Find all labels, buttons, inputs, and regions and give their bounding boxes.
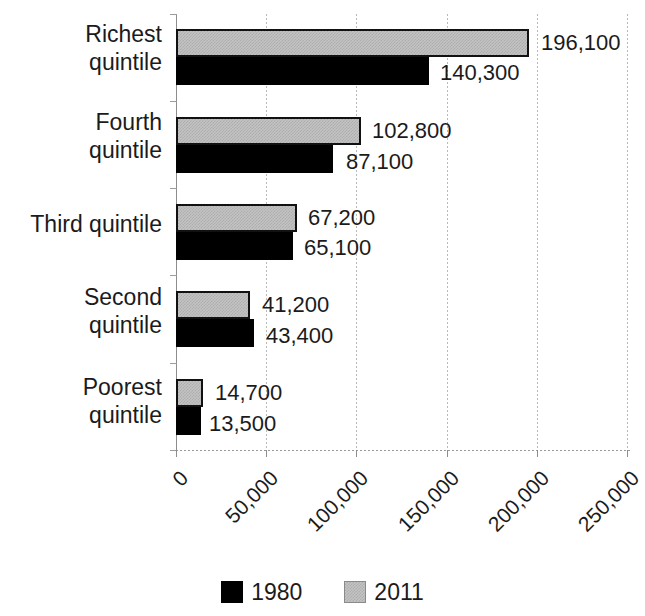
y-axis-tick-3	[170, 275, 177, 276]
value-label-1980-poorest: 13,500	[209, 412, 276, 436]
gridline-250000	[627, 14, 628, 450]
y-axis-tick-4	[170, 363, 177, 364]
bar-2011-third	[176, 204, 297, 232]
y-axis-tick-2	[170, 188, 177, 189]
legend-swatch-2011-icon	[344, 581, 366, 603]
value-label-1980-fourth: 87,100	[346, 150, 413, 174]
category-label-richest: Richest quintile	[10, 20, 162, 76]
category-label-fourth: Fourth quintile	[10, 108, 162, 164]
legend-swatch-1980-icon	[221, 581, 243, 603]
bar-1980-poorest	[176, 407, 201, 435]
legend-label-2011: 2011	[374, 579, 423, 606]
x-axis-tick-3	[447, 450, 448, 457]
value-label-2011-second: 41,200	[262, 293, 329, 317]
bar-2011-poorest	[176, 379, 203, 407]
category-label-third: Third quintile	[4, 210, 162, 238]
x-axis-tick-0	[176, 450, 177, 457]
bar-1980-richest	[176, 57, 429, 85]
bar-chart: Richest quintile Fourth quintile Third q…	[0, 0, 645, 616]
value-label-1980-third: 65,100	[304, 236, 371, 260]
x-axis-tick-4	[537, 450, 538, 457]
value-label-2011-third: 67,200	[308, 206, 375, 230]
y-axis-tick-0	[170, 14, 177, 15]
chart-legend: 1980 2011	[0, 575, 645, 609]
bar-1980-second	[176, 319, 254, 347]
bar-1980-third	[176, 232, 293, 260]
bar-1980-fourth	[176, 145, 333, 173]
bar-2011-second	[176, 291, 250, 319]
x-axis-baseline	[176, 450, 632, 451]
value-label-2011-richest: 196,100	[541, 31, 621, 55]
value-label-1980-second: 43,400	[266, 324, 333, 348]
category-label-poorest: Poorest quintile	[10, 373, 162, 429]
y-axis-tick-1	[170, 101, 177, 102]
legend-entry-1980[interactable]: 1980	[221, 579, 302, 606]
gridline-200000	[537, 14, 538, 450]
value-label-2011-poorest: 14,700	[215, 381, 282, 405]
value-label-2011-fourth: 102,800	[372, 119, 452, 143]
bar-2011-richest	[176, 29, 529, 57]
x-axis-tick-5	[627, 450, 628, 457]
legend-entry-2011[interactable]: 2011	[344, 579, 423, 606]
category-label-second: Second quintile	[10, 283, 162, 339]
legend-label-1980: 1980	[251, 579, 302, 606]
bar-2011-fourth	[176, 117, 361, 145]
x-axis-tick-1	[266, 450, 267, 457]
value-label-1980-richest: 140,300	[440, 61, 520, 85]
x-axis-tick-2	[356, 450, 357, 457]
